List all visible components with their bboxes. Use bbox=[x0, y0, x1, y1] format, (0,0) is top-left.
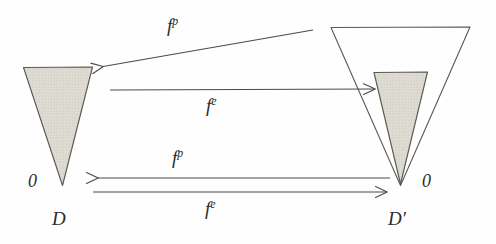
map-label-fp-top-superscript: p bbox=[172, 15, 178, 28]
map-label-fp-lower: fp bbox=[172, 148, 183, 167]
arrow-fe-upper bbox=[110, 89, 375, 90]
left-domain-label: D bbox=[52, 209, 66, 228]
diagram-vector-layer bbox=[0, 0, 496, 244]
right-domain-label: D′ bbox=[388, 209, 406, 228]
left-zero-label: 0 bbox=[28, 172, 37, 190]
right-zero-label: 0 bbox=[422, 172, 431, 190]
right-inner-cone-shape bbox=[374, 72, 428, 184]
map-label-fp-top: fp bbox=[167, 16, 178, 35]
map-label-fe-upper: fe bbox=[206, 96, 217, 115]
diagram-canvas: fp fe fp fe 0 D 0 D′ bbox=[0, 0, 496, 244]
map-label-fe-upper-superscript: e bbox=[211, 95, 216, 108]
arrow-fp-top bbox=[103, 30, 313, 67]
left-cone-shape bbox=[24, 67, 93, 186]
map-label-fp-lower-superscript: p bbox=[177, 147, 183, 160]
map-label-fe-lower: fe bbox=[205, 199, 216, 218]
map-label-fe-lower-superscript: e bbox=[210, 198, 215, 211]
